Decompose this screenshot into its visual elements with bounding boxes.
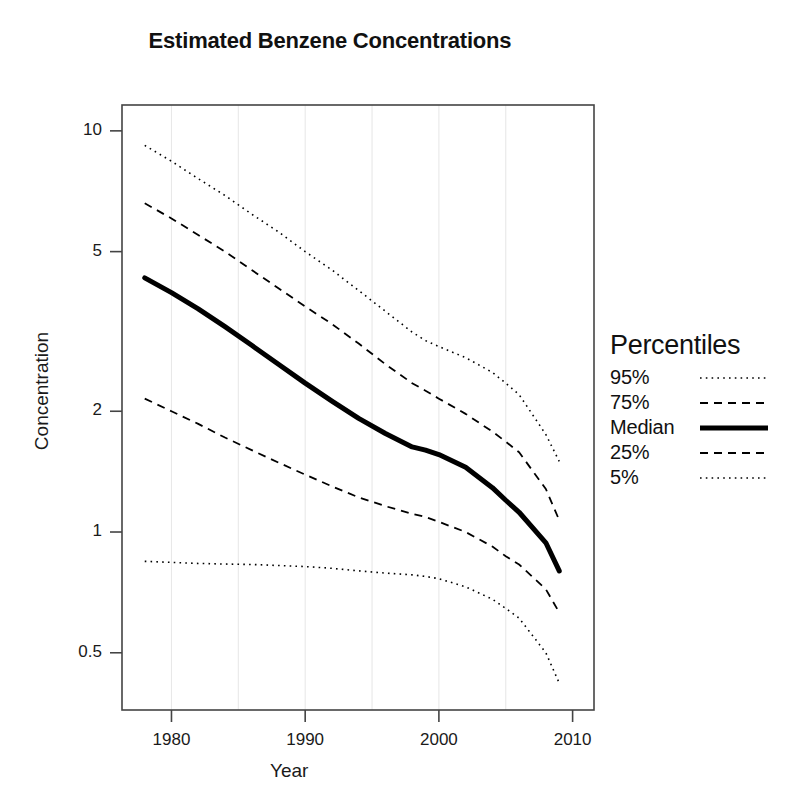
legend: Percentiles 95%75%Median25%5% xyxy=(610,330,800,490)
x-tick-label: 2000 xyxy=(409,730,469,750)
x-tick-label: 1980 xyxy=(141,730,201,750)
y-tick-label: 5 xyxy=(56,241,102,261)
legend-item-label: Median xyxy=(610,416,698,439)
legend-key-dashed xyxy=(698,396,770,410)
legend-items: 95%75%Median25%5% xyxy=(610,365,800,490)
data-series-group xyxy=(145,145,560,683)
x-tick-label: 2010 xyxy=(543,730,603,750)
legend-key-dotted xyxy=(698,371,770,385)
legend-item-label: 25% xyxy=(610,441,698,464)
series-line-25pct xyxy=(145,399,560,613)
series-line-75pct xyxy=(145,203,560,520)
x-axis-title: Year xyxy=(270,760,308,782)
legend-key-dotted xyxy=(698,471,770,485)
y-tick-label: 10 xyxy=(56,120,102,140)
axis-ticks-group xyxy=(110,131,573,722)
legend-item: 25% xyxy=(610,440,800,465)
legend-title: Percentiles xyxy=(610,330,800,361)
x-tick-label: 1990 xyxy=(275,730,335,750)
y-tick-label: 2 xyxy=(56,400,102,420)
chart-figure: Estimated Benzene Concentrations 0.51251… xyxy=(0,0,805,808)
legend-item: 5% xyxy=(610,465,800,490)
series-line-5pct xyxy=(145,561,560,683)
legend-item: 95% xyxy=(610,365,800,390)
legend-item-label: 5% xyxy=(610,466,698,489)
legend-key-dashed xyxy=(698,446,770,460)
legend-key-solid xyxy=(698,421,770,435)
legend-item: Median xyxy=(610,415,800,440)
plot-frame xyxy=(122,105,594,710)
y-tick-label: 1 xyxy=(56,521,102,541)
legend-item-label: 75% xyxy=(610,391,698,414)
y-axis-title: Concentration xyxy=(31,321,53,461)
series-line-median xyxy=(145,278,560,571)
legend-item-label: 95% xyxy=(610,366,698,389)
y-tick-label: 0.5 xyxy=(56,642,102,662)
legend-item: 75% xyxy=(610,390,800,415)
